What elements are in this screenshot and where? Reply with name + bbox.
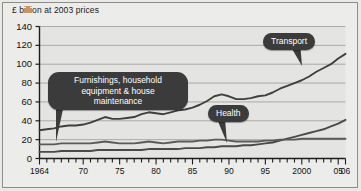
y-tick-label: 80: [6, 77, 32, 88]
x-tick-label: 2000: [287, 166, 317, 176]
x-tick-label: 80: [141, 166, 171, 176]
y-tick-label: 120: [6, 39, 32, 50]
y-tick-label: 20: [6, 134, 32, 145]
x-tick-label: 75: [105, 166, 135, 176]
callout-health: Health: [208, 105, 249, 122]
chart-container: £ billion at 2003 prices 020406080100120…: [0, 0, 361, 191]
y-tick-label: 60: [6, 96, 32, 107]
x-tick-label: 70: [68, 166, 98, 176]
y-tick-label: 100: [6, 58, 32, 69]
callout-furnishings: Furnishings, household equipment & house…: [48, 72, 188, 110]
x-tick-label: 1964: [25, 166, 55, 176]
x-tick-label: 06: [331, 166, 361, 176]
callout-transport: Transport: [263, 33, 315, 50]
x-axis-group: [40, 159, 346, 165]
y-tick-label: 40: [6, 115, 32, 126]
x-tick-label: 85: [178, 166, 208, 176]
y-tick-label: 140: [6, 21, 32, 32]
x-tick-label: 95: [250, 166, 280, 176]
y-axis-group: [36, 27, 40, 159]
y-tick-label: 0: [6, 153, 32, 164]
x-tick-label: 90: [214, 166, 244, 176]
